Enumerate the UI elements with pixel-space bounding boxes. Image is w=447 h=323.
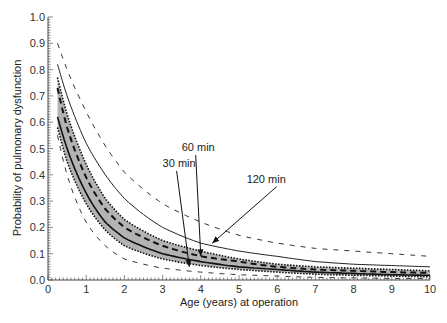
x-tick-label: 9 (389, 283, 395, 295)
annotation-label-2: 120 min (247, 173, 286, 185)
x-tick-label: 3 (160, 283, 166, 295)
x-tick-label: 2 (121, 283, 127, 295)
annotation-arrow-2 (212, 187, 276, 243)
series-line-2 (58, 78, 431, 271)
y-tick-label: 0.1 (30, 248, 45, 260)
y-tick-label: 0.6 (30, 116, 45, 128)
x-tick-label: 0 (45, 283, 51, 295)
series-lines (58, 43, 431, 278)
y-tick-label: 0.8 (30, 64, 45, 76)
x-tick-label: 4 (198, 283, 204, 295)
x-tick-label: 7 (312, 283, 318, 295)
y-tick-label: 0.7 (30, 90, 45, 102)
x-tick-label: 10 (424, 283, 436, 295)
axes: 0123456789100.00.10.20.30.40.50.60.70.80… (30, 11, 436, 295)
chart: 0123456789100.00.10.20.30.40.50.60.70.80… (0, 0, 447, 323)
series-line-5 (58, 128, 431, 277)
y-tick-label: 0.2 (30, 221, 45, 233)
x-axis-title: Age (years) at operation (180, 296, 298, 308)
shaded-band (58, 78, 431, 277)
x-tick-label: 6 (274, 283, 280, 295)
y-tick-label: 0.4 (30, 169, 45, 181)
y-tick-label: 0.3 (30, 195, 45, 207)
confidence-band (58, 78, 431, 277)
series-line-3 (58, 88, 431, 273)
y-axis-title: Probability of pulmonary dysfunction (11, 60, 23, 237)
x-tick-label: 5 (236, 283, 242, 295)
x-tick-label: 8 (351, 283, 357, 295)
y-tick-label: 0.5 (30, 143, 45, 155)
y-tick-label: 0.0 (30, 274, 45, 286)
annotation-label-1: 60 min (182, 141, 215, 153)
y-tick-label: 0.9 (30, 37, 45, 49)
annotation-label-0: 30 min (163, 157, 196, 169)
series-line-6 (58, 135, 431, 278)
y-tick-label: 1.0 (30, 11, 45, 23)
x-tick-label: 1 (83, 283, 89, 295)
